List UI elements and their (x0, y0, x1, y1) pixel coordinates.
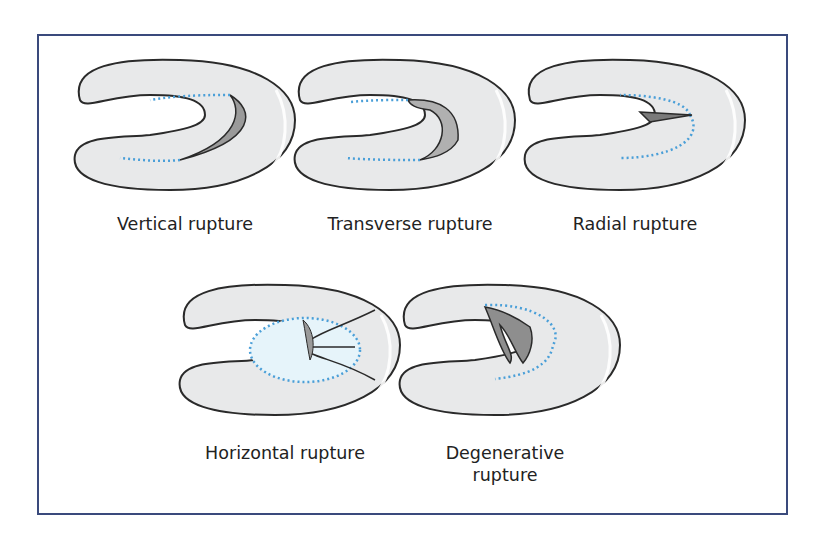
degenerative-rupture-label-line2: rupture (430, 464, 580, 486)
horizontal-rupture-diagram (180, 285, 400, 415)
radial-rupture-diagram (525, 60, 745, 190)
radial-rupture-label: Radial rupture (555, 213, 715, 235)
horizontal-rupture-label: Horizontal rupture (185, 442, 385, 464)
transverse-rupture-diagram (295, 60, 515, 190)
degenerative-rupture-label-line1: Degenerative (430, 442, 580, 464)
vertical-rupture-diagram (75, 60, 295, 190)
degenerative-rupture-diagram (400, 285, 620, 415)
transverse-rupture-label: Transverse rupture (315, 213, 505, 235)
vertical-rupture-label: Vertical rupture (100, 213, 270, 235)
meniscus-illustrations (0, 0, 819, 537)
